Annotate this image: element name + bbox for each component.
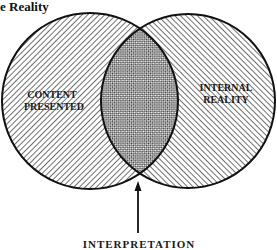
right-label-line1: INTERNAL	[200, 82, 253, 93]
left-label-line2: PRESENTED	[24, 101, 84, 112]
right-label: INTERNAL REALITY	[200, 82, 253, 105]
right-label-line2: REALITY	[203, 94, 249, 105]
left-label-line1: CONTENT	[27, 89, 77, 100]
venn-diagram: e Reality CONTENT PRESENTED INTERNAL REA…	[0, 0, 277, 250]
title-fragment: e Reality	[0, 0, 49, 14]
left-label: CONTENT PRESENTED	[22, 89, 86, 117]
arrow	[135, 181, 142, 233]
interpretation-label: INTERPRETATION	[83, 238, 196, 250]
